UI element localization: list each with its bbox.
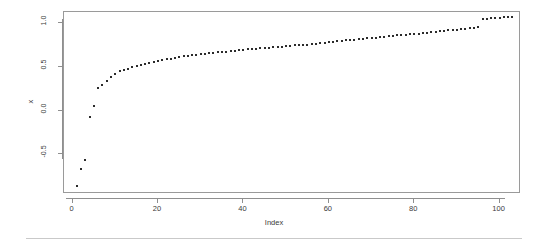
data-point <box>161 59 163 61</box>
data-point <box>315 43 317 45</box>
data-point <box>127 68 129 70</box>
data-point <box>392 35 394 37</box>
data-point <box>336 40 338 42</box>
data-point <box>178 56 180 58</box>
data-point <box>264 47 266 49</box>
data-point <box>473 27 475 29</box>
data-point <box>247 48 249 50</box>
data-point <box>379 36 381 38</box>
y-tick-label: -0.5 <box>40 139 47 165</box>
data-point <box>456 29 458 31</box>
data-point <box>311 43 313 45</box>
data-point <box>341 40 343 42</box>
data-point <box>230 50 232 52</box>
x-tick-mark <box>242 198 243 203</box>
data-point <box>469 27 471 29</box>
data-point <box>418 33 420 35</box>
data-point <box>371 37 373 39</box>
data-point <box>148 62 150 64</box>
data-point <box>332 41 334 43</box>
data-point <box>358 38 360 40</box>
y-tick-label: 0.0 <box>40 95 47 121</box>
data-point <box>268 47 270 49</box>
x-tick-label: 0 <box>57 204 87 213</box>
data-point <box>460 28 462 30</box>
data-point <box>388 35 390 37</box>
data-point <box>174 57 176 59</box>
data-point <box>195 54 197 56</box>
data-point <box>396 34 398 36</box>
plot-area <box>63 11 520 193</box>
data-point <box>349 39 351 41</box>
data-point <box>422 32 424 34</box>
data-point <box>234 50 236 52</box>
data-point <box>144 63 146 65</box>
data-point <box>212 52 214 54</box>
x-tick-label: 100 <box>484 204 514 213</box>
data-point <box>482 18 484 20</box>
data-point <box>157 60 159 62</box>
x-tick-label: 20 <box>142 204 172 213</box>
data-point <box>187 55 189 57</box>
data-point <box>362 38 364 40</box>
data-point <box>238 49 240 51</box>
data-point <box>221 51 223 53</box>
data-point <box>302 44 304 46</box>
data-point <box>486 18 488 20</box>
data-point <box>200 53 202 55</box>
data-point <box>217 51 219 53</box>
data-point <box>324 42 326 44</box>
figure-canvas: -0.50.00.51.0 x 020406080100 Index <box>0 0 548 244</box>
data-point <box>294 44 296 46</box>
data-point <box>285 45 287 47</box>
data-point <box>76 185 78 187</box>
data-point <box>153 61 155 63</box>
data-point <box>426 32 428 34</box>
data-point <box>80 168 82 170</box>
data-point <box>494 17 496 19</box>
scatter-points-layer <box>64 12 519 192</box>
x-tick-mark <box>157 198 158 203</box>
data-point <box>375 37 377 39</box>
data-point <box>507 16 509 18</box>
data-point <box>136 65 138 67</box>
data-point <box>281 46 283 48</box>
data-point <box>409 33 411 35</box>
data-point <box>435 31 437 33</box>
data-point <box>93 105 95 107</box>
x-tick-mark <box>72 198 73 203</box>
x-tick-label: 80 <box>398 204 428 213</box>
x-tick-label: 40 <box>227 204 257 213</box>
data-point <box>490 17 492 19</box>
data-point <box>242 49 244 51</box>
data-point <box>84 159 86 161</box>
footer-divider <box>26 238 522 239</box>
data-point <box>89 116 91 118</box>
data-point <box>131 66 133 68</box>
data-point <box>511 16 513 18</box>
data-point <box>400 34 402 36</box>
data-point <box>306 44 308 46</box>
data-point <box>166 58 168 60</box>
data-point <box>140 64 142 66</box>
data-point <box>383 36 385 38</box>
data-point <box>477 26 479 28</box>
data-point <box>277 46 279 48</box>
data-point <box>191 54 193 56</box>
data-point <box>430 31 432 33</box>
data-point <box>204 53 206 55</box>
data-point <box>251 48 253 50</box>
x-axis-line <box>66 198 505 199</box>
y-tick-label: 0.5 <box>40 51 47 77</box>
data-point <box>345 39 347 41</box>
data-point <box>464 28 466 30</box>
data-point <box>255 48 257 50</box>
x-tick-mark <box>499 198 500 203</box>
data-point <box>452 29 454 31</box>
x-tick-label: 60 <box>313 204 343 213</box>
data-point <box>114 73 116 75</box>
data-point <box>328 41 330 43</box>
data-point <box>289 45 291 47</box>
data-point <box>183 55 185 57</box>
data-point <box>443 30 445 32</box>
